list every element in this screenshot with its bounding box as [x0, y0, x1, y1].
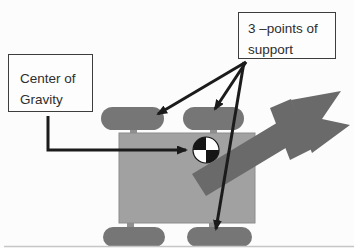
cog-label-line1: Center of [20, 68, 92, 89]
support-label-line1: 3 –points of [248, 18, 335, 39]
center-of-gravity-icon [193, 137, 219, 163]
center-of-gravity-label-box: Center of Gravity [8, 54, 93, 112]
support-pointer-front-left [158, 62, 246, 114]
cog-label-line2: Gravity [20, 89, 92, 110]
wheel-rear-left [103, 227, 165, 247]
wheel-front-left [101, 107, 164, 130]
support-label-line2: support [248, 39, 335, 60]
points-of-support-label-box: 3 –points of support [238, 12, 336, 59]
wheel-rear-right [187, 227, 252, 247]
stability-diagram: Center of Gravity 3 –points of support [0, 0, 354, 248]
